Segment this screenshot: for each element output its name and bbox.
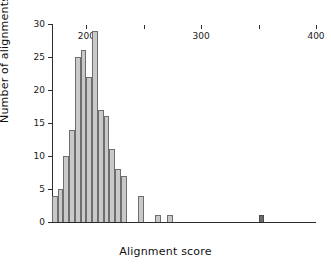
x-tick [86,25,87,29]
x-axis-line [52,222,316,223]
x-tick [144,25,145,29]
histogram-bar [121,176,127,222]
y-tick [48,222,52,223]
y-tick [48,189,52,190]
y-tick-label: 0 [39,218,45,227]
y-tick-label: 25 [34,53,45,62]
y-axis-line [52,24,53,222]
x-axis-title: Alignment score [0,245,331,258]
y-tick [48,24,52,25]
x-tick [201,25,202,29]
y-tick-label: 15 [34,119,45,128]
y-tick-label: 10 [34,152,45,161]
y-tick-label: 5 [39,185,45,194]
y-tick-label: 30 [34,20,45,29]
x-tick-label: 400 [307,32,324,41]
y-axis-title: Number of alignments [0,0,11,123]
plot-area: 051015202530 200300400 [52,24,316,222]
x-tick-label: 300 [193,32,210,41]
histogram-bar [259,215,265,222]
histogram-bar [167,215,173,222]
x-tick [259,25,260,29]
histogram-bar [138,196,144,222]
y-tick [48,156,52,157]
histogram-bar [155,215,161,222]
histogram-figure: 051015202530 200300400 Number of alignme… [0,0,331,265]
x-tick [316,25,317,29]
y-tick [48,57,52,58]
y-tick [48,90,52,91]
y-tick [48,123,52,124]
y-tick-label: 20 [34,86,45,95]
